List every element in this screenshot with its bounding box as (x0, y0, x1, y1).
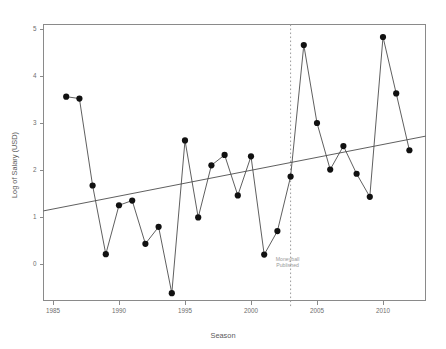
y-tick-label: 5 (33, 25, 37, 32)
x-tick-label: 2005 (310, 307, 325, 314)
data-point (142, 241, 148, 247)
x-axis-title: Season (210, 331, 235, 340)
data-point (222, 152, 228, 158)
data-point (195, 214, 201, 220)
x-tick-label: 2010 (376, 307, 391, 314)
series-polyline (66, 37, 409, 293)
x-tick-label: 1985 (46, 307, 61, 314)
y-tick-label: 2 (33, 166, 37, 173)
data-point (169, 290, 175, 296)
event-annotation-group: MoneyballPublished (276, 25, 300, 307)
chart-container: MoneyballPublished 012345198519901995200… (0, 0, 446, 349)
data-points-group (63, 34, 412, 296)
data-point (354, 171, 360, 177)
data-point (156, 224, 162, 230)
y-tick-label: 0 (33, 260, 37, 267)
axes-group (40, 25, 426, 305)
data-point (235, 192, 241, 198)
data-point (182, 137, 188, 143)
x-tick-label: 2000 (244, 307, 259, 314)
tick-labels-group: 012345198519901995200020052010 (33, 25, 391, 313)
x-tick-label: 1995 (178, 307, 193, 314)
data-point (90, 182, 96, 188)
data-point (380, 34, 386, 40)
data-point (248, 153, 254, 159)
data-point (208, 162, 214, 168)
data-point (261, 252, 267, 258)
data-point (327, 166, 333, 172)
data-point (393, 90, 399, 96)
data-point (288, 173, 294, 179)
data-point (314, 120, 320, 126)
series-line-group (66, 37, 409, 293)
y-axis-title: Log of Salary (USD) (10, 132, 19, 198)
data-point (301, 42, 307, 48)
trendline-group (44, 136, 426, 211)
data-point (340, 143, 346, 149)
x-tick-label: 1990 (112, 307, 127, 314)
y-tick-label: 4 (33, 72, 37, 79)
event-label-line2: Published (276, 262, 299, 268)
data-point (406, 147, 412, 153)
data-point (76, 95, 82, 101)
salary-scatter-chart: MoneyballPublished 012345198519901995200… (0, 0, 446, 349)
plot-frame (44, 25, 426, 301)
data-point (63, 94, 69, 100)
data-point (129, 197, 135, 203)
data-point (367, 194, 373, 200)
data-point (274, 228, 280, 234)
data-point (116, 202, 122, 208)
trend-line (44, 136, 426, 211)
y-tick-label: 3 (33, 119, 37, 126)
data-point (103, 251, 109, 257)
y-tick-label: 1 (33, 213, 37, 220)
